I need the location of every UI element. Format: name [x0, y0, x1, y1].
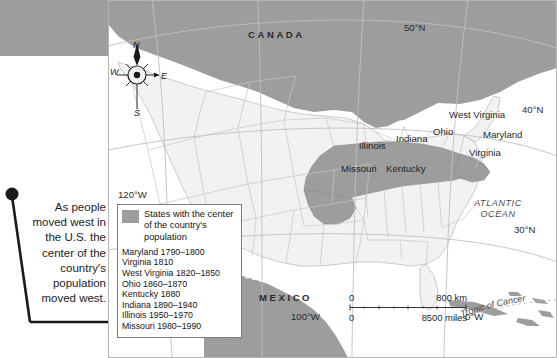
scale-miles-row: 0 8500 miles	[349, 312, 467, 323]
annotation-callout: As people moved west in the U.S. the cen…	[4, 186, 108, 358]
scale-miles-start: 0	[349, 312, 354, 323]
scale-miles-end: 8500 miles	[422, 312, 467, 323]
legend-item: Maryland 1790–1800	[122, 247, 237, 258]
legend-caption: States with the center of the country's …	[144, 209, 237, 243]
legend-item: West Virginia 1820–1850	[122, 268, 237, 279]
scale-km-end: 800 km	[436, 292, 467, 303]
scale-km-row: 0 800 km	[349, 292, 467, 303]
legend-item: Indiana 1890–1940	[122, 300, 237, 311]
legend-item: Virginia 1810	[122, 257, 237, 268]
legend-item: Kentucky 1880	[122, 289, 237, 300]
legend-item: Ohio 1860–1870	[122, 279, 237, 290]
scale-km-start: 0	[349, 292, 354, 303]
legend-swatch-row: States with the center of the country's …	[122, 209, 237, 243]
legend-item: Illinois 1950–1970	[122, 310, 237, 321]
legend-item: Missouri 1980–1990	[122, 321, 237, 332]
legend-entry-list: Maryland 1790–1800 Virginia 1810 West Vi…	[122, 247, 237, 332]
legend-color-swatch	[122, 210, 139, 223]
corner-grey-block	[0, 0, 108, 56]
annotation-text: As people moved west in the U.S. the cen…	[26, 200, 106, 306]
map-scale-bar: 0 800 km 0 8500 miles	[349, 292, 467, 323]
map-legend: States with the center of the country's …	[117, 204, 242, 338]
scale-bar-graphic	[349, 304, 467, 311]
